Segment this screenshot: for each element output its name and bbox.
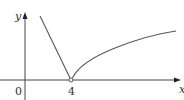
linear-piece <box>40 16 70 78</box>
y-axis-label: y <box>15 11 21 22</box>
graph-canvas <box>0 0 184 100</box>
function-graph: y x 0 4 <box>0 0 184 100</box>
y-axis-arrow-icon <box>23 12 28 19</box>
origin-label: 0 <box>15 86 22 97</box>
open-point-marker <box>69 78 73 82</box>
tick-label-4: 4 <box>68 86 75 97</box>
x-axis-label: x <box>179 84 184 95</box>
x-axis-arrow-icon <box>174 78 181 83</box>
sqrt-curve-piece <box>73 31 177 78</box>
